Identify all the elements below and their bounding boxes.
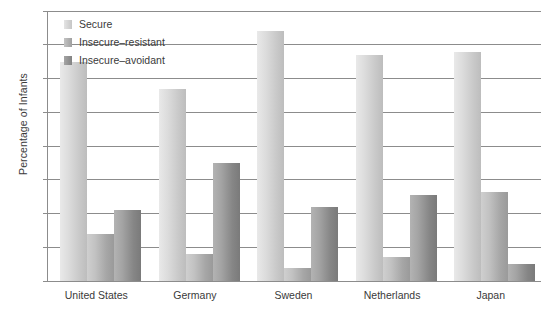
bar-japan-insecure-resistant (481, 192, 508, 281)
bar-japan-insecure-avoidant (508, 264, 535, 281)
bar-netherlands-insecure-resistant (383, 257, 410, 281)
bar-united-states-insecure-avoidant (114, 210, 141, 281)
y-tick-20 (43, 213, 48, 214)
legend-swatch-icon (64, 56, 72, 65)
y-tick-50 (43, 112, 48, 113)
y-tick-30 (43, 179, 48, 180)
x-axis-label-japan: Japan (441, 289, 540, 301)
bar-japan-secure (454, 52, 481, 282)
legend-item-insecure-avoidant: Insecure–avoidant (64, 52, 165, 68)
bar-germany-insecure-resistant (186, 254, 213, 281)
bar-chart: Percentage of Infants 01020304050607080 … (0, 0, 551, 319)
x-axis-label-germany: Germany (146, 289, 245, 301)
y-tick-40 (43, 146, 48, 147)
x-axis-label-netherlands: Netherlands (343, 289, 442, 301)
bar-germany-insecure-avoidant (213, 163, 240, 281)
bar-sweden-secure (257, 31, 284, 281)
legend-label: Insecure–resistant (79, 36, 165, 48)
legend-item-secure: Secure (64, 16, 165, 32)
y-tick-10 (43, 247, 48, 248)
bar-sweden-insecure-resistant (284, 268, 311, 282)
bar-netherlands-insecure-avoidant (410, 195, 437, 281)
bar-germany-secure (159, 89, 186, 281)
x-axis-label-united-states: United States (47, 289, 146, 301)
legend-label: Secure (79, 18, 112, 30)
y-tick-60 (43, 78, 48, 79)
bar-united-states-insecure-resistant (87, 234, 114, 281)
bar-netherlands-secure (356, 55, 383, 281)
bar-united-states-secure (60, 62, 87, 281)
legend-label: Insecure–avoidant (79, 54, 165, 66)
x-axis-label-sweden: Sweden (244, 289, 343, 301)
legend-swatch-icon (64, 38, 72, 47)
gridline-80 (48, 11, 541, 12)
legend-item-insecure-resistant: Insecure–resistant (64, 34, 165, 50)
bar-sweden-insecure-avoidant (311, 207, 338, 281)
y-tick-70 (43, 44, 48, 45)
chart-legend: SecureInsecure–resistantInsecure–avoidan… (64, 16, 165, 70)
legend-swatch-icon (64, 20, 72, 29)
y-axis-title: Percentage of Infants (17, 49, 29, 199)
y-tick-80 (43, 11, 48, 12)
y-tick-0 (43, 281, 48, 282)
